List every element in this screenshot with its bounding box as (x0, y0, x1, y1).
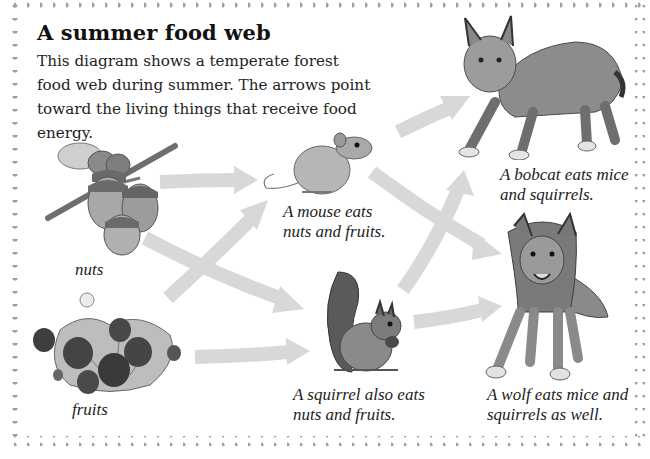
arrow-fruits-to-squirrel (195, 352, 288, 357)
food-web-diagram: A summer food web This diagram shows a t… (0, 0, 650, 459)
caption-fruits: fruits (72, 400, 108, 420)
arrow-squirrel-to-wolf (414, 310, 482, 322)
strawberries-illustration (30, 290, 190, 395)
arrow-mouse-to-bobcat (398, 108, 450, 132)
wolf-illustration (478, 212, 618, 382)
squirrel-illustration (318, 262, 408, 380)
bobcat-illustration (455, 12, 630, 160)
caption-wolf: A wolf eats mice and squirrels as well. (487, 385, 628, 425)
caption-squirrel: A squirrel also eats nuts and fruits. (293, 385, 425, 425)
acorns-illustration (40, 138, 180, 258)
caption-nuts: nuts (75, 260, 103, 280)
caption-mouse: A mouse eats nuts and fruits. (283, 202, 386, 242)
mouse-illustration (262, 130, 382, 200)
caption-bobcat: A bobcat eats mice and squirrels. (500, 165, 629, 205)
